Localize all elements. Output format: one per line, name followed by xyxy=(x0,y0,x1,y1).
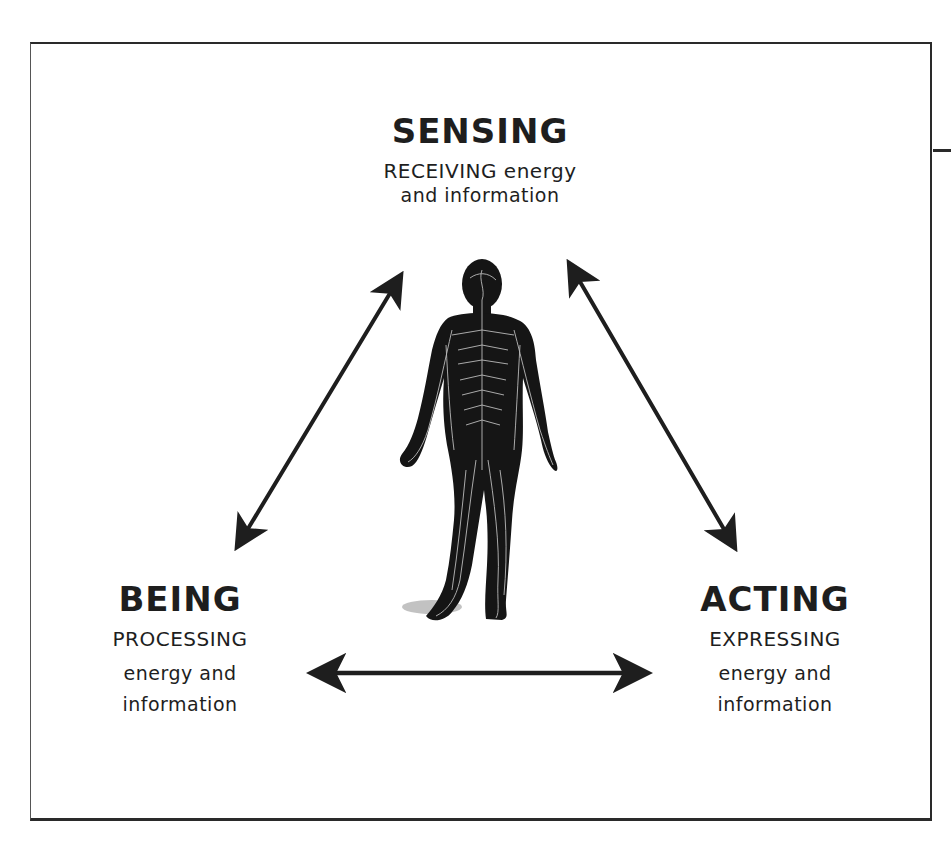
node-sensing: SENSING RECEIVING energy and information xyxy=(330,110,630,207)
node-being: BEING PROCESSING energy and information xyxy=(60,578,300,717)
human-nervous-system-figure xyxy=(400,259,558,620)
node-acting-line1: EXPRESSING xyxy=(650,627,900,652)
node-acting-title: ACTING xyxy=(650,578,900,621)
node-being-line2: energy and xyxy=(60,662,300,686)
node-being-title: BEING xyxy=(60,578,300,621)
node-acting: ACTING EXPRESSING energy and information xyxy=(650,578,900,717)
node-being-line1: PROCESSING xyxy=(60,627,300,652)
node-sensing-line1: RECEIVING energy xyxy=(330,159,630,184)
arrow-sensing-acting xyxy=(572,268,732,543)
node-being-line3: information xyxy=(60,693,300,717)
node-acting-line3: information xyxy=(650,693,900,717)
node-acting-line2: energy and xyxy=(650,662,900,686)
node-sensing-line2: and information xyxy=(330,184,630,208)
arrow-sensing-being xyxy=(240,280,398,542)
node-sensing-title: SENSING xyxy=(330,110,630,153)
